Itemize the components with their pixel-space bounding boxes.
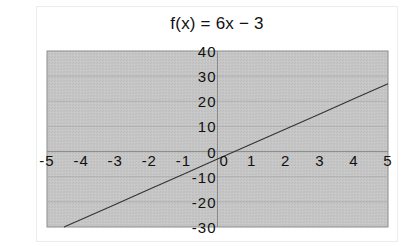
plot-area: 403020100-10-20-30 -5-4-3-2-1012345 bbox=[0, 0, 409, 246]
x-tick-label: 3 bbox=[315, 152, 324, 169]
y-tick-label: -10 bbox=[192, 169, 217, 186]
y-tick-label: 40 bbox=[198, 43, 217, 60]
x-tick-label: 0 bbox=[220, 152, 229, 169]
x-tick-label: 2 bbox=[281, 152, 290, 169]
x-tick-label: -2 bbox=[142, 152, 157, 169]
y-tick-label: -20 bbox=[192, 194, 217, 211]
x-tick-label: -5 bbox=[39, 152, 54, 169]
x-tick-label: -1 bbox=[176, 152, 191, 169]
y-tick-label: 20 bbox=[198, 93, 217, 110]
x-tick-label: 1 bbox=[247, 152, 256, 169]
y-tick-label: -30 bbox=[192, 219, 217, 236]
x-tick-label: -4 bbox=[73, 152, 88, 169]
y-tick-label: 10 bbox=[198, 118, 217, 135]
x-tick-label: -3 bbox=[108, 152, 123, 169]
y-tick-label: 30 bbox=[198, 68, 217, 85]
x-tick-label: 4 bbox=[349, 152, 358, 169]
x-tick-label: 5 bbox=[383, 152, 392, 169]
y-tick-label: 0 bbox=[207, 144, 216, 161]
